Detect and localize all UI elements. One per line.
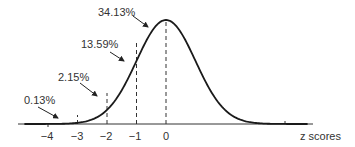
annotation-0-13: 0.13% bbox=[24, 94, 55, 106]
annotation-13-59: 13.59% bbox=[81, 38, 119, 50]
annotation-2-15: 2.15% bbox=[58, 71, 89, 83]
tick-label-neg4: −4 bbox=[41, 130, 54, 142]
tick-label-neg2: −2 bbox=[100, 130, 113, 142]
tick-label-0: 0 bbox=[163, 130, 169, 142]
reference-lines bbox=[78, 21, 167, 124]
annotation-34-13: 34.13% bbox=[98, 6, 136, 18]
normal-distribution-chart: 0.13% 2.15% 13.59% 34.13% −4 −3 −2 −1 0 … bbox=[0, 0, 355, 147]
x-axis-label: z scores bbox=[300, 130, 341, 142]
tick-label-neg1: −1 bbox=[129, 130, 142, 142]
tick-label-neg3: −3 bbox=[71, 130, 84, 142]
